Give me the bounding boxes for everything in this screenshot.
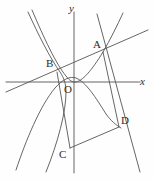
point-label-D: D — [121, 115, 129, 126]
line-through-A-and-D-extended — [97, 14, 140, 172]
x-axis-label: x — [140, 76, 145, 87]
segment-A-D — [103, 52, 119, 127]
point-label-A: A — [93, 39, 101, 50]
axes-group — [6, 12, 140, 173]
coordinate-geometry-figure: y x O A B C D — [0, 0, 154, 180]
upward-parabola — [32, 10, 123, 82]
point-label-B: B — [46, 58, 53, 69]
figure-canvas — [0, 0, 154, 180]
point-label-C: C — [59, 149, 66, 160]
lines-group — [6, 14, 148, 172]
line-through-B-and-A — [6, 30, 148, 92]
point-label-O: O — [64, 84, 72, 95]
y-axis-label: y — [69, 3, 74, 14]
segment-C-D — [70, 127, 119, 148]
